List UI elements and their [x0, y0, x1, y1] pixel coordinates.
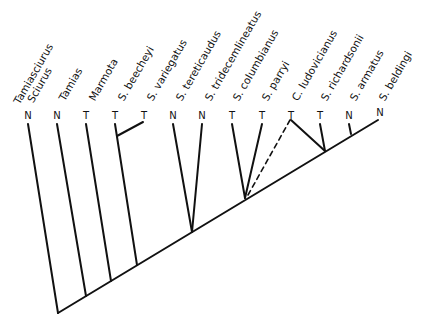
state-marker: T	[83, 111, 89, 121]
branch-armatus	[349, 124, 351, 134]
state-marker: T	[317, 111, 323, 121]
spine-branch	[58, 120, 378, 313]
state-marker: N	[24, 111, 31, 121]
branch-marmota	[86, 124, 111, 281]
branch-tereticaudus	[173, 124, 192, 232]
branch-columbianus	[232, 124, 245, 198]
tree-branches	[0, 0, 438, 331]
state-marker: N	[53, 111, 60, 121]
state-marker: T	[288, 111, 294, 121]
state-marker: N	[198, 111, 205, 121]
state-marker: T	[229, 111, 235, 121]
state-marker: N	[376, 108, 383, 118]
state-marker: T	[259, 111, 265, 121]
branch-parryi	[245, 124, 262, 198]
state-marker: N	[345, 111, 352, 121]
branch-beecheyi	[115, 124, 137, 265]
state-marker: N	[169, 111, 176, 121]
branch-tamias	[57, 124, 86, 296]
branch-tamiasciurus	[28, 124, 58, 313]
branch-variegatus	[117, 122, 143, 136]
state-marker: T	[112, 111, 118, 121]
branch-tridecemlineatus	[192, 124, 202, 232]
state-marker: T	[141, 111, 147, 121]
